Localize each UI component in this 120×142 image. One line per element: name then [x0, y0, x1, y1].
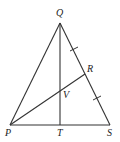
label-s: S: [107, 127, 112, 138]
triangle-diagram: Q R V P T S: [0, 0, 120, 142]
segment-pr: [10, 74, 85, 125]
label-v: V: [63, 89, 71, 100]
label-t: T: [57, 127, 64, 138]
label-q: Q: [56, 7, 64, 18]
label-r: R: [86, 63, 93, 74]
label-p: P: [4, 127, 11, 138]
segment-pq: [10, 23, 60, 125]
